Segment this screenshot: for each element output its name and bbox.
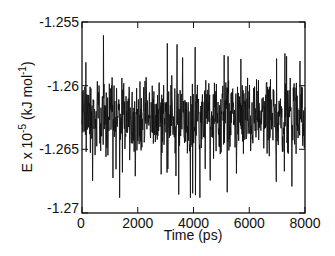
y-axis-label-close: ) (19, 61, 35, 66)
x-tick-label: 8000 (289, 215, 320, 231)
y-axis-label: E x 10-5 (kJ mol-1) (17, 61, 35, 172)
y-axis-label-unit: (kJ mol (19, 75, 35, 124)
y-tick-label: -1.26 (47, 78, 79, 94)
y-tick-label: -1.265 (39, 141, 79, 157)
energy-trace-line (82, 35, 305, 197)
energy-time-chart: 02000400060008000 -1.27-1.265-1.26-1.255… (0, 0, 335, 256)
energy-trace-polyline (82, 35, 305, 197)
x-tick-label: 6000 (234, 215, 265, 231)
x-axis-label: Time (ps) (164, 227, 223, 243)
y-tick-label: -1.27 (47, 200, 79, 216)
y-axis-label-main: E x 10 (19, 133, 35, 173)
y-tick-label: -1.255 (39, 14, 79, 30)
x-tick-label: 0 (77, 215, 85, 231)
x-tick-label: 2000 (122, 215, 153, 231)
